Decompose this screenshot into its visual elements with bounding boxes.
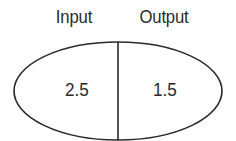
output-value: 1.5 xyxy=(138,79,192,101)
io-ellipse xyxy=(0,0,236,141)
input-value: 2.5 xyxy=(50,79,104,101)
